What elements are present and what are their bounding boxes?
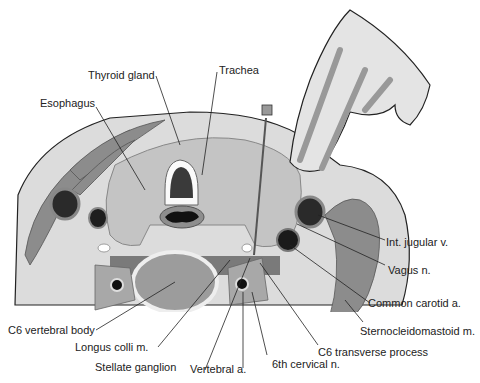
label-int-jugular: Int. jugular v. xyxy=(386,236,448,248)
right-jugular xyxy=(296,197,324,227)
left-carotid xyxy=(89,208,107,228)
label-c6-transverse: C6 transverse process xyxy=(318,346,428,358)
right-carotid xyxy=(277,229,299,251)
label-vagus: Vagus n. xyxy=(388,264,431,276)
label-trachea: Trachea xyxy=(219,64,259,76)
left-jugular xyxy=(51,189,79,219)
label-c6-body: C6 vertebral body xyxy=(8,324,95,336)
label-6th-cervical: 6th cervical n. xyxy=(272,358,340,370)
label-common-carotid: Common carotid a. xyxy=(368,297,461,309)
palpating-fingers xyxy=(290,10,430,171)
label-esophagus: Esophagus xyxy=(40,97,95,109)
left-vertebral-artery xyxy=(111,279,123,291)
label-vertebral-a: Vertebral a. xyxy=(190,363,246,375)
label-thyroid-gland: Thyroid gland xyxy=(88,69,155,81)
label-scm: Sternocleidomastoid m. xyxy=(360,325,475,337)
label-longus-colli: Longus colli m. xyxy=(75,341,148,353)
label-stellate: Stellate ganglion xyxy=(95,361,176,373)
